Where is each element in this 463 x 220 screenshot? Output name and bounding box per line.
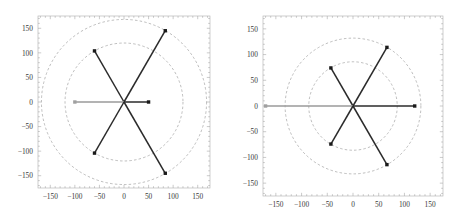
x-tick-label: 0: [351, 200, 355, 209]
x-tick-label: 150: [425, 200, 436, 209]
y-tick-label: 0: [254, 102, 258, 111]
x-tick-label: 150: [192, 192, 203, 201]
endpoint-marker-60deg[interactable]: [164, 29, 167, 32]
y-tick-label: 0: [29, 98, 33, 107]
x-tick-label: −50: [94, 192, 106, 201]
y-tick-label: 50: [251, 76, 259, 85]
endpoint-marker-60deg[interactable]: [385, 46, 388, 49]
chart-panel-right: −150−100−50050100150−150−100−50050100150: [231, 0, 462, 220]
y-tick-label: 150: [22, 24, 33, 33]
y-tick-label: 150: [247, 25, 258, 34]
y-tick-label: 100: [247, 50, 258, 59]
ray-60deg[interactable]: [353, 47, 387, 106]
y-tick-label: −100: [18, 147, 34, 156]
endpoint-marker-300deg[interactable]: [164, 172, 167, 175]
y-tick-label: 50: [26, 73, 34, 82]
ray-240deg[interactable]: [331, 106, 353, 144]
endpoint-marker-300deg[interactable]: [385, 163, 388, 166]
x-tick-label: −100: [67, 192, 83, 201]
x-tick-label: 100: [399, 200, 410, 209]
endpoint-marker-180deg[interactable]: [264, 104, 267, 107]
endpoint-marker-240deg[interactable]: [93, 151, 96, 154]
x-tick-label: −150: [43, 192, 59, 201]
ray-300deg[interactable]: [124, 102, 165, 173]
ray-120deg[interactable]: [331, 68, 353, 106]
figure-container: −150−100−50050100150−150−100−50050100150…: [0, 0, 463, 220]
ray-120deg[interactable]: [95, 51, 124, 102]
x-tick-label: −50: [322, 200, 334, 209]
endpoint-marker-240deg[interactable]: [329, 142, 332, 145]
y-tick-label: −50: [21, 122, 33, 131]
x-tick-label: 100: [168, 192, 179, 201]
ray-240deg[interactable]: [95, 102, 124, 153]
ray-300deg[interactable]: [353, 106, 387, 165]
y-tick-label: −100: [243, 153, 259, 162]
endpoint-marker-120deg[interactable]: [329, 66, 332, 69]
endpoint-marker-0deg[interactable]: [413, 104, 416, 107]
plot-svg-right: −150−100−50050100150−150−100−50050100150: [231, 0, 462, 220]
y-tick-label: −50: [246, 127, 258, 136]
y-tick-label: −150: [18, 171, 34, 180]
y-tick-label: −150: [243, 179, 259, 188]
chart-panel-left: −150−100−50050100150−150−100−50050100150: [0, 0, 231, 220]
y-tick-label: 100: [22, 49, 33, 58]
plot-svg-left: −150−100−50050100150−150−100−50050100150: [0, 0, 231, 220]
ray-group: [73, 29, 167, 175]
endpoint-marker-0deg[interactable]: [147, 100, 150, 103]
x-tick-label: 0: [122, 192, 126, 201]
ray-60deg[interactable]: [124, 31, 165, 102]
x-tick-label: −150: [268, 200, 284, 209]
endpoint-marker-120deg[interactable]: [93, 49, 96, 52]
endpoint-marker-180deg[interactable]: [73, 100, 76, 103]
x-tick-label: 50: [375, 200, 383, 209]
x-tick-label: 50: [145, 192, 153, 201]
x-tick-label: −100: [294, 200, 310, 209]
